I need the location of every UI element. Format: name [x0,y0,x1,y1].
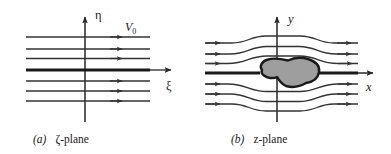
streamline-b-1 [205,36,358,43]
panel-b-caption-text: z-plane [253,133,287,146]
streamline-b-2 [205,47,358,55]
streamline-b-7 [205,104,358,111]
panel-a: η V0 ξ [26,8,172,146]
streamline-b-5 [205,84,358,92]
panel-b-caption: (b)z-plane [231,133,287,146]
panel-b-horizontal-axis-label: x [365,80,372,94]
panel-a-caption-label: (a) [33,133,47,146]
panel-b: y x [205,12,373,146]
obstacle-body [261,58,319,87]
panel-a-caption: (a)ζ-plane [33,133,89,146]
panel-a-caption-text: ζ-plane [55,133,89,146]
velocity-subscript: 0 [132,27,136,36]
figure-container: η V0 ξ [0,0,391,154]
panel-a-horizontal-axis-label: ξ [166,79,172,93]
panel-b-vertical-axis-label: y [286,12,294,26]
panel-a-vertical-axis-label: η [95,8,102,22]
figure-svg: η V0 ξ [0,0,391,154]
panel-b-caption-label: (b) [231,133,245,146]
streamline-b-6 [205,94,358,102]
panel-a-velocity-label: V0 [125,20,136,36]
